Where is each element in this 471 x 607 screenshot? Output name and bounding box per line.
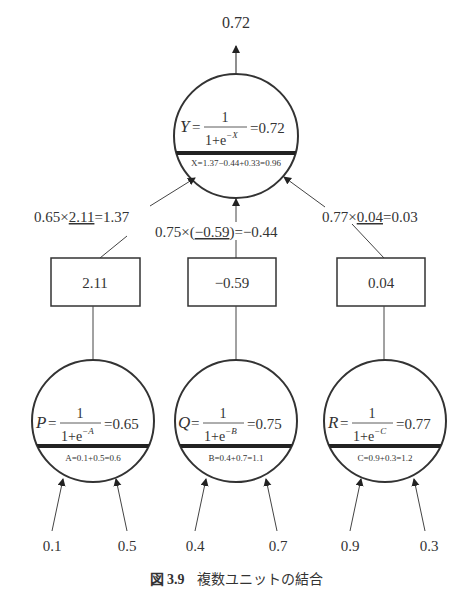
unit-Q-lhs: Q <box>178 413 190 432</box>
weight-box-1: 2.11 <box>51 258 140 306</box>
weight-value-2: −0.59 <box>215 275 250 291</box>
unit-P-result: =0.65 <box>104 416 139 432</box>
input-arrows <box>52 479 425 531</box>
input-value: 0.1 <box>43 538 62 554</box>
unit-R-sum: C=0.9+0.3=1.2 <box>358 453 413 463</box>
weight-expr-3: 0.77×0.04=0.03 <box>322 209 418 225</box>
unit-Y-sum: X=1.37−0.44+0.33=0.96 <box>191 158 281 168</box>
unit-P: P = 1 1+e−A =0.65 A=0.1+0.5=0.6 <box>32 360 154 482</box>
weight-box-3: 0.04 <box>337 258 425 306</box>
unit-R-result: =0.77 <box>396 416 431 432</box>
input-value: 0.7 <box>269 538 288 554</box>
caption-label: 図 3.9 <box>150 572 185 587</box>
weight-box-2: −0.59 <box>188 258 276 306</box>
unit-Q: Q = 1 1+e−B =0.75 B=0.4+0.7=1.1 <box>175 360 297 482</box>
input-value: 0.3 <box>420 538 439 554</box>
unit-Y-numerator: 1 <box>222 110 229 125</box>
weight-expr-2: 0.75×(−0.59)=−0.44 <box>155 224 278 241</box>
output-value: 0.72 <box>222 14 250 31</box>
unit-Q-result: =0.75 <box>247 416 282 432</box>
unit-Y-lhs: Y <box>180 117 191 136</box>
equals-sign: = <box>191 415 199 431</box>
figure-3-9: 0.72 Y = 1 1+e−X =0.72 X=1.37−0.44+0.33=… <box>0 0 471 607</box>
equals-sign: = <box>192 119 200 135</box>
unit-P-sum: A=0.1+0.5=0.6 <box>65 453 121 463</box>
input-value: 0.5 <box>118 538 137 554</box>
weight-value-3: 0.04 <box>368 275 395 291</box>
unit-R-lhs: R <box>327 413 339 432</box>
unit-Y-result: =0.72 <box>250 120 285 136</box>
unit-P-lhs: P <box>35 413 46 432</box>
network-diagram: 0.72 Y = 1 1+e−X =0.72 X=1.37−0.44+0.33=… <box>0 0 471 607</box>
equals-sign: = <box>48 415 56 431</box>
unit-Q-numerator: 1 <box>220 406 227 421</box>
equals-sign: = <box>340 415 348 431</box>
unit-R: R = 1 1+e−C =0.77 C=0.9+0.3=1.2 <box>324 360 446 482</box>
input-value: 0.9 <box>341 538 360 554</box>
unit-P-numerator: 1 <box>77 406 84 421</box>
figure-caption: 図 3.9複数ユニットの結合 <box>150 571 323 587</box>
weight-value-1: 2.11 <box>82 275 108 291</box>
unit-Q-sum: B=0.4+0.7=1.1 <box>209 453 264 463</box>
weight-expr-1: 0.65×2.11=1.37 <box>34 209 130 225</box>
caption-text: 複数ユニットの結合 <box>197 571 323 587</box>
unit-R-numerator: 1 <box>369 406 376 421</box>
input-value: 0.4 <box>186 538 205 554</box>
